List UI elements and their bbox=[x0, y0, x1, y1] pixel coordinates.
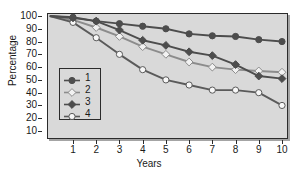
data-point-marker bbox=[278, 75, 286, 83]
x-tick-label: 7 bbox=[202, 145, 222, 155]
x-axis: 12345678910 bbox=[0, 140, 298, 160]
y-tick-mark bbox=[38, 131, 42, 132]
x-tick-label: 2 bbox=[86, 145, 106, 155]
data-point-marker bbox=[232, 61, 240, 69]
data-point-marker bbox=[140, 67, 146, 73]
y-tick-label: 60 bbox=[26, 62, 37, 72]
data-point-marker bbox=[185, 58, 193, 66]
data-point-marker bbox=[70, 14, 76, 20]
data-point-marker bbox=[256, 90, 262, 96]
data-point-marker bbox=[163, 26, 169, 32]
data-point-marker bbox=[232, 33, 238, 39]
y-axis-title: Percentage bbox=[7, 26, 18, 96]
data-point-marker bbox=[208, 63, 216, 71]
legend-item-label: 1 bbox=[83, 72, 91, 83]
x-tick-label: 4 bbox=[133, 145, 153, 155]
y-tick-label: 70 bbox=[26, 49, 37, 59]
data-point-marker bbox=[93, 35, 99, 41]
y-tick-mark bbox=[38, 29, 42, 30]
data-point-marker bbox=[185, 48, 193, 56]
x-axis-title: Years bbox=[0, 158, 298, 169]
legend-item-4: 4 bbox=[63, 108, 100, 119]
x-tick-label: 8 bbox=[226, 145, 246, 155]
x-tick-label: 10 bbox=[272, 145, 292, 155]
legend-item-3: 3 bbox=[63, 96, 100, 107]
data-point-marker bbox=[232, 87, 238, 93]
y-tick-label: 30 bbox=[26, 100, 37, 110]
y-tick-label: 100 bbox=[20, 11, 37, 21]
x-tick-label: 3 bbox=[109, 145, 129, 155]
data-point-marker bbox=[208, 52, 216, 60]
y-tick-label: 40 bbox=[26, 88, 37, 98]
legend-item-label: 3 bbox=[83, 96, 91, 107]
data-point-marker bbox=[256, 37, 262, 43]
data-point-marker bbox=[140, 23, 146, 29]
y-tick-mark bbox=[38, 105, 42, 106]
y-tick-label: 10 bbox=[26, 126, 37, 136]
y-tick-mark bbox=[38, 93, 42, 94]
data-point-marker bbox=[209, 87, 215, 93]
data-point-marker bbox=[162, 50, 170, 58]
legend-open-diamond-icon bbox=[63, 84, 83, 95]
y-tick-mark bbox=[38, 67, 42, 68]
y-tick-mark bbox=[38, 42, 42, 43]
data-point-marker bbox=[279, 102, 285, 108]
y-tick-mark bbox=[38, 54, 42, 55]
data-point-marker bbox=[209, 33, 215, 39]
data-point-marker bbox=[279, 38, 285, 44]
legend-item-label: 2 bbox=[83, 84, 91, 95]
legend: 1234 bbox=[59, 68, 101, 120]
data-point-marker bbox=[163, 77, 169, 83]
y-tick-label: 90 bbox=[26, 24, 37, 34]
data-point-marker bbox=[186, 31, 192, 37]
data-point-marker bbox=[162, 41, 170, 49]
legend-item-1: 1 bbox=[63, 72, 100, 83]
y-tick-mark bbox=[38, 118, 42, 119]
data-point-marker bbox=[116, 21, 122, 27]
y-tick-label: 50 bbox=[26, 75, 37, 85]
chart-figure: 100908070605040302010 Percentage 1234 12… bbox=[0, 0, 298, 179]
x-tick-label: 6 bbox=[179, 145, 199, 155]
legend-filled-diamond-icon bbox=[63, 96, 83, 107]
data-point-marker bbox=[116, 26, 124, 34]
data-point-marker bbox=[139, 36, 147, 44]
x-tick-label: 5 bbox=[156, 145, 176, 155]
legend-item-2: 2 bbox=[63, 84, 100, 95]
x-tick-label: 1 bbox=[63, 145, 83, 155]
y-tick-mark bbox=[38, 80, 42, 81]
data-point-marker bbox=[186, 82, 192, 88]
data-point-marker bbox=[93, 18, 99, 24]
data-point-marker bbox=[116, 51, 122, 57]
legend-item-label: 4 bbox=[83, 108, 91, 119]
x-tick-label: 9 bbox=[249, 145, 269, 155]
y-tick-label: 20 bbox=[26, 113, 37, 123]
legend-filled-circle-icon bbox=[63, 72, 83, 83]
data-point-marker bbox=[255, 72, 263, 80]
y-tick-label: 80 bbox=[26, 37, 37, 47]
legend-open-circle-icon bbox=[63, 108, 83, 119]
y-tick-mark bbox=[38, 16, 42, 17]
